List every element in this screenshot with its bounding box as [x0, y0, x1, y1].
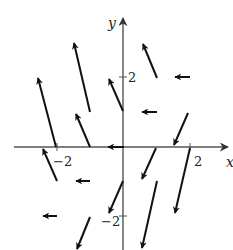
y-axis-label: y — [107, 15, 117, 31]
vector-arrow — [74, 43, 90, 112]
vector-arrow — [76, 114, 90, 147]
vector-arrow — [174, 113, 188, 145]
vector-arrow — [109, 181, 123, 213]
y-tick-label-2: 2 — [128, 70, 136, 85]
vector-arrow — [77, 217, 90, 249]
vector-field-figure: x y −2 2 2 −2 — [0, 0, 233, 250]
x-axis-label: x — [226, 154, 233, 170]
vector-arrow — [143, 44, 157, 78]
vector-arrow — [38, 78, 56, 147]
x-tick-label-2: 2 — [194, 154, 202, 169]
x-tick-label-neg2: −2 — [53, 154, 72, 169]
vector-arrow — [175, 148, 190, 213]
vector-arrow — [142, 181, 157, 248]
axes: x y −2 2 2 −2 — [14, 15, 233, 250]
vector-arrow — [109, 79, 123, 111]
vector-arrow — [142, 148, 156, 179]
vector-field-plot: x y −2 2 2 −2 — [0, 0, 233, 250]
y-tick-label-neg2: −2 — [101, 214, 120, 229]
